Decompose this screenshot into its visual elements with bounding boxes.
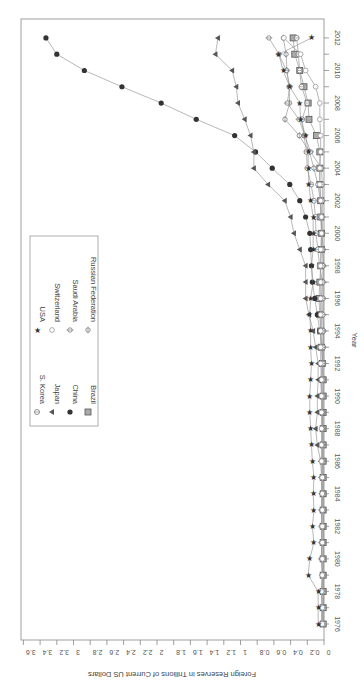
legend-label: Brazil [89,385,98,404]
value-tick-label: 0.6 [276,649,286,656]
value-axis-ticks: 00.20.40.60.811.21.41.61.822.22.42.62.83… [23,640,330,656]
value-tick-label: 1.8 [176,649,186,656]
value-tick-label: 2.8 [93,649,103,656]
svg-text:★: ★ [307,326,314,335]
value-tick-label: 1.4 [209,649,219,656]
value-tick-label: 2.2 [143,649,153,656]
legend-label: Saudi Arabia [71,279,80,322]
year-tick-label: 2010 [334,63,341,79]
year-tick-label: 1978 [334,584,341,600]
series-switzerland [282,36,325,627]
svg-text:★: ★ [305,571,312,580]
year-tick-label: 1990 [334,388,341,404]
svg-text:★: ★ [307,424,314,433]
value-tick-label: 0.4 [293,649,303,656]
legend-label: S. Korea [38,375,47,405]
svg-text:★: ★ [307,375,314,384]
legend-label: Japan [53,384,62,404]
svg-text:★: ★ [310,506,317,515]
svg-text:★: ★ [310,213,317,222]
value-tick-label: 1.6 [193,649,203,656]
svg-text:★: ★ [297,115,304,124]
year-tick-label: 1988 [334,421,341,437]
value-tick-label: 3.2 [59,649,69,656]
year-tick-label: 1998 [334,258,341,274]
svg-text:★: ★ [307,343,314,352]
year-tick-label: 2002 [334,193,341,209]
svg-text:★: ★ [275,50,282,59]
svg-text:★: ★ [315,620,322,629]
y-axis-title: Foreign Reserves in Trillions of Current… [88,670,256,679]
year-tick-label: 1982 [334,519,341,535]
svg-text:★: ★ [305,164,312,173]
svg-text:★: ★ [310,538,317,547]
year-tick-label: 1980 [334,551,341,567]
svg-text:★: ★ [315,603,322,612]
x-axis-title: Year [350,332,359,348]
year-tick-label: 1986 [334,453,341,469]
svg-text:★: ★ [302,131,309,140]
foreign-reserves-chart: ★★★★★★★★★★★★★★★★★★★★★★★★★★★★★★★★★★★★★ 00… [0,0,364,698]
year-tick-label: 2000 [334,225,341,241]
value-tick-label: 2.6 [109,649,119,656]
svg-text:★: ★ [306,408,313,417]
svg-text:★: ★ [308,33,315,42]
svg-text:★: ★ [310,245,317,254]
legend-label: USA [38,307,47,322]
value-tick-label: 1.2 [226,649,236,656]
year-tick-label: 2006 [334,128,341,144]
year-tick-label: 1984 [334,486,341,502]
value-tick-label: 3 [76,649,80,656]
svg-text:★: ★ [315,587,322,596]
svg-text:★: ★ [307,294,314,303]
svg-text:★: ★ [306,310,313,319]
svg-text:★: ★ [307,196,314,205]
year-tick-label: 2012 [334,30,341,46]
svg-text:★: ★ [296,99,303,108]
svg-text:★: ★ [305,147,312,156]
legend-label: Switzerland [53,283,62,322]
svg-text:★: ★ [306,554,313,563]
year-tick-label: 2004 [334,160,341,176]
legend: BrazilChinaJapanS. KoreaRussian Federati… [30,236,98,426]
svg-text:★: ★ [306,392,313,401]
value-tick-label: 0 [326,649,330,656]
year-tick-label: 1992 [334,356,341,372]
svg-text:★: ★ [308,440,315,449]
svg-text:★: ★ [308,359,315,368]
svg-text:★: ★ [308,261,315,270]
value-tick-label: 2 [159,649,163,656]
svg-text:★: ★ [310,489,317,498]
value-tick-label: 2.4 [126,649,136,656]
svg-text:★: ★ [34,326,41,335]
year-tick-label: 1976 [334,616,341,632]
year-tick-label: 1996 [334,291,341,307]
year-tick-label: 1994 [334,323,341,339]
svg-text:★: ★ [310,278,317,287]
svg-text:★: ★ [280,66,287,75]
value-tick-label: 3.4 [42,649,52,656]
svg-text:★: ★ [309,457,316,466]
value-tick-label: 0.8 [260,649,270,656]
svg-text:★: ★ [309,522,316,531]
svg-text:★: ★ [286,82,293,91]
value-tick-label: 0.2 [310,649,320,656]
legend-label: China [71,384,80,404]
value-tick-label: 1 [243,649,247,656]
svg-text:★: ★ [310,473,317,482]
year-tick-label: 2008 [334,95,341,111]
legend-label: Russian Federation [89,257,98,322]
value-tick-label: 3.6 [26,649,36,656]
svg-text:★: ★ [305,180,312,189]
svg-text:★: ★ [310,229,317,238]
